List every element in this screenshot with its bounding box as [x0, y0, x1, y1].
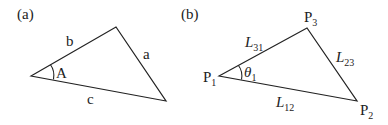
panel-b-label: (b) [181, 6, 199, 23]
angle-theta-label: θ1 [244, 64, 256, 83]
vertex-p1-label: P1 [203, 69, 216, 88]
panel-b: (b) θ1 P1 P3 P2 L31 L23 L12 [181, 6, 373, 121]
side-l31-label: L31 [244, 34, 263, 53]
panel-a-label: (a) [17, 6, 34, 23]
side-c-label: c [87, 91, 94, 107]
side-b-label: b [66, 33, 74, 49]
panel-a: (a) A b a c [17, 6, 166, 107]
angle-a-label: A [56, 65, 67, 81]
angle-theta-arc [239, 66, 242, 80]
side-a-label: a [143, 46, 150, 62]
side-l23-label: L23 [335, 49, 354, 68]
triangle-diagrams: (a) A b a c (b) θ1 P1 P3 P2 L31 L23 L12 [0, 0, 388, 125]
side-l12-label: L12 [275, 94, 294, 113]
vertex-p2-label: P2 [360, 102, 373, 121]
triangle-a [31, 27, 166, 101]
angle-a-arc [51, 65, 54, 80]
vertex-p3-label: P3 [304, 9, 317, 28]
